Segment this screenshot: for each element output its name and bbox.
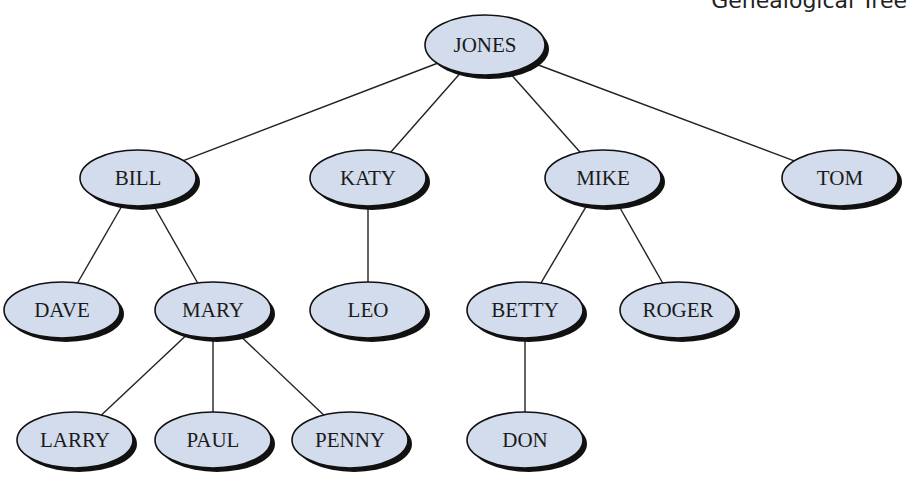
nodes-layer: JONESBILLKATYMIKETOMDAVEMARYLEOBETTYROGE… bbox=[4, 15, 902, 472]
node-bill: BILL bbox=[80, 150, 200, 210]
node-label: MARY bbox=[182, 298, 244, 322]
node-label: KATY bbox=[340, 166, 396, 190]
node-katy: KATY bbox=[310, 150, 430, 210]
node-mike: MIKE bbox=[545, 150, 665, 210]
node-paul: PAUL bbox=[155, 412, 275, 472]
node-roger: ROGER bbox=[620, 282, 740, 342]
tree-canvas: JONESBILLKATYMIKETOMDAVEMARYLEOBETTYROGE… bbox=[0, 0, 911, 484]
edge-bill-mary bbox=[153, 205, 197, 283]
edge-mike-roger bbox=[618, 205, 662, 283]
node-penny: PENNY bbox=[292, 412, 412, 472]
node-label: JONES bbox=[453, 33, 516, 57]
node-larry: LARRY bbox=[17, 412, 137, 472]
edge-mike-betty bbox=[541, 205, 587, 283]
edge-jones-mike bbox=[509, 72, 580, 152]
node-label: DON bbox=[502, 428, 548, 452]
node-label: MIKE bbox=[576, 166, 630, 190]
edge-bill-dave bbox=[78, 205, 123, 283]
node-label: LEO bbox=[348, 298, 389, 322]
node-label: PAUL bbox=[187, 428, 240, 452]
node-leo: LEO bbox=[310, 282, 430, 342]
node-dave: DAVE bbox=[4, 282, 124, 342]
node-label: TOM bbox=[817, 166, 864, 190]
edge-mary-penny bbox=[239, 335, 323, 415]
node-label: ROGER bbox=[642, 298, 713, 322]
edge-jones-bill bbox=[183, 63, 437, 160]
node-label: BETTY bbox=[491, 298, 559, 322]
node-don: DON bbox=[467, 412, 587, 472]
node-mary: MARY bbox=[155, 282, 275, 342]
node-label: LARRY bbox=[40, 428, 110, 452]
node-label: DAVE bbox=[34, 298, 90, 322]
node-tom: TOM bbox=[782, 150, 902, 210]
edges-layer bbox=[78, 63, 795, 415]
node-label: BILL bbox=[115, 166, 162, 190]
edge-jones-tom bbox=[533, 63, 794, 161]
diagram-caption: Genealogical Tree bbox=[711, 0, 907, 13]
node-betty: BETTY bbox=[467, 282, 587, 342]
genealogical-tree-diagram: Genealogical Tree JONESBILLKATYMIKETOMDA… bbox=[0, 0, 911, 484]
node-label: PENNY bbox=[315, 428, 385, 452]
node-jones: JONES bbox=[425, 15, 549, 79]
edge-mary-larry bbox=[101, 335, 186, 415]
edge-jones-katy bbox=[391, 72, 461, 152]
